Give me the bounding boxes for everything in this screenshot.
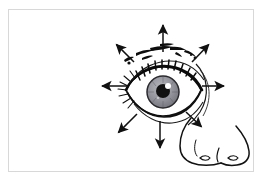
arrow-up-right: [192, 44, 209, 62]
secondary-highlight: [157, 97, 159, 99]
figure-root: Eye movement directions Line drawing of …: [0, 0, 263, 182]
eye: [118, 60, 209, 125]
nostril-right: [228, 156, 238, 161]
eye-direction-illustration: Eye movement directions Line drawing of …: [0, 0, 263, 182]
eyebrow: [124, 43, 196, 64]
nose: [180, 118, 249, 165]
arrow-down-left: [118, 114, 137, 133]
corneal-highlight: [165, 83, 171, 89]
nostril-left: [200, 156, 210, 161]
